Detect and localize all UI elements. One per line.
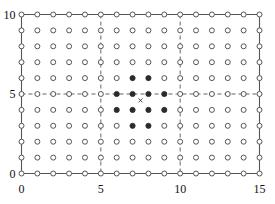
lattice-point-filled xyxy=(146,123,151,128)
lattice-point-open xyxy=(146,171,151,176)
lattice-point-open xyxy=(209,139,214,144)
lattice-point-open xyxy=(225,171,230,176)
lattice-point-crosshair xyxy=(98,107,103,112)
lattice-point-crosshair xyxy=(51,92,56,97)
lattice-point-open xyxy=(51,171,56,176)
lattice-point-open xyxy=(51,107,56,112)
lattice-point-open xyxy=(209,12,214,17)
lattice-point-crosshair xyxy=(98,92,103,97)
lattice-point-open xyxy=(241,155,246,160)
lattice-point-open xyxy=(35,171,40,176)
lattice-point-open xyxy=(241,60,246,65)
lattice-point-open xyxy=(162,60,167,65)
lattice-point-open xyxy=(162,44,167,49)
lattice-point-crosshair xyxy=(178,76,183,81)
lattice-point-open xyxy=(51,28,56,33)
y-tick-label: 10 xyxy=(0,9,16,21)
lattice-point-open xyxy=(241,28,246,33)
lattice-point-crosshair xyxy=(225,92,230,97)
lattice-point-open xyxy=(194,28,199,33)
lattice-point-open xyxy=(82,60,87,65)
lattice-point-crosshair xyxy=(98,155,103,160)
lattice-point-open xyxy=(146,44,151,49)
lattice-point-open xyxy=(209,123,214,128)
x-tick-label: 15 xyxy=(254,183,266,195)
lattice-point-open xyxy=(35,155,40,160)
lattice-point-crosshair xyxy=(98,12,103,17)
lattice-point-open xyxy=(82,123,87,128)
x-tick-label: 5 xyxy=(98,183,104,195)
lattice-point-open xyxy=(82,76,87,81)
lattice-point-open xyxy=(35,28,40,33)
lattice-point-crosshair xyxy=(98,123,103,128)
lattice-point-open xyxy=(194,12,199,17)
lattice-point-open xyxy=(146,139,151,144)
lattice-point-open xyxy=(130,155,135,160)
lattice-point-filled xyxy=(114,91,119,96)
y-tick-label: 5 xyxy=(0,88,16,100)
lattice-point-open xyxy=(114,171,119,176)
lattice-point-open xyxy=(225,139,230,144)
lattice-point-filled xyxy=(162,91,167,96)
lattice-point-open xyxy=(19,123,24,128)
lattice-point-open xyxy=(19,60,24,65)
lattice-point-open xyxy=(209,155,214,160)
lattice-point-open xyxy=(130,12,135,17)
lattice-point-open xyxy=(19,107,24,112)
lattice-point-open xyxy=(114,123,119,128)
lattice-point-open xyxy=(209,171,214,176)
lattice-point-open xyxy=(241,107,246,112)
x-tick-label: 10 xyxy=(174,183,186,195)
lattice-point-open xyxy=(257,44,262,49)
lattice-point-crosshair xyxy=(178,44,183,49)
lattice-point-filled xyxy=(130,76,135,81)
lattice-point-open xyxy=(257,107,262,112)
lattice-point-open xyxy=(114,76,119,81)
lattice-point-filled xyxy=(146,91,151,96)
lattice-point-open xyxy=(257,12,262,17)
lattice-point-crosshair xyxy=(178,139,183,144)
lattice-point-open xyxy=(67,123,72,128)
lattice-point-open xyxy=(225,12,230,17)
lattice-point-filled xyxy=(130,91,135,96)
lattice-point-open xyxy=(194,76,199,81)
lattice-point-open xyxy=(67,76,72,81)
lattice-point-open xyxy=(209,44,214,49)
lattice-point-open xyxy=(51,12,56,17)
lattice-point-open xyxy=(19,12,24,17)
lattice-point-crosshair xyxy=(241,92,246,97)
lattice-point-open xyxy=(194,155,199,160)
lattice-point-crosshair xyxy=(82,92,87,97)
lattice-point-open xyxy=(130,139,135,144)
lattice-point-open xyxy=(114,139,119,144)
lattice-point-crosshair xyxy=(178,28,183,33)
lattice-point-open xyxy=(225,44,230,49)
lattice-point-crosshair xyxy=(178,171,183,176)
plot-canvas xyxy=(0,0,275,204)
lattice-point-open xyxy=(162,12,167,17)
lattice-point-open xyxy=(257,139,262,144)
lattice-point-crosshair xyxy=(98,76,103,81)
lattice-point-crosshair xyxy=(178,12,183,17)
lattice-point-open xyxy=(162,76,167,81)
lattice-point-filled xyxy=(162,107,167,112)
lattice-point-open xyxy=(67,139,72,144)
lattice-point-open xyxy=(225,155,230,160)
lattice-point-open xyxy=(194,44,199,49)
lattice-point-open xyxy=(257,76,262,81)
lattice-point-open xyxy=(162,171,167,176)
lattice-point-open xyxy=(225,123,230,128)
lattice-point-open xyxy=(241,12,246,17)
lattice-point-open xyxy=(130,44,135,49)
lattice-point-open xyxy=(225,28,230,33)
lattice-point-open xyxy=(82,171,87,176)
lattice-point-open xyxy=(225,60,230,65)
lattice-point-open xyxy=(51,155,56,160)
lattice-point-open xyxy=(51,44,56,49)
lattice-point-filled xyxy=(146,76,151,81)
lattice-point-open xyxy=(162,139,167,144)
lattice-point-open xyxy=(241,44,246,49)
lattice-point-open xyxy=(67,60,72,65)
lattice-point-open xyxy=(194,123,199,128)
lattice-point-open xyxy=(209,76,214,81)
